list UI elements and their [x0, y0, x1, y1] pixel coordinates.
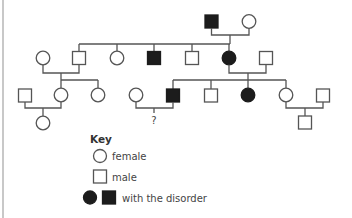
generation-1 — [79, 15, 256, 44]
individual-II-5-male — [186, 52, 199, 65]
individual-III-5-affected-male — [167, 89, 180, 102]
key-female-symbol — [94, 150, 107, 163]
key-label-male: male — [112, 172, 137, 183]
key-label-female: female — [112, 151, 146, 162]
key-male-symbol — [94, 170, 107, 183]
individual-IV-1-female — [36, 116, 50, 130]
child-drop-lines-II — [79, 44, 229, 52]
individual-III-4-female — [129, 88, 143, 102]
generation-3 — [19, 80, 330, 116]
key-label-disorder: with the disorder — [122, 193, 208, 204]
key-affected-female-symbol — [84, 191, 97, 204]
couple-line-III-right — [286, 102, 323, 108]
individual-II-1-female — [36, 51, 50, 65]
individual-I-1-affected-male — [205, 15, 218, 28]
individual-II-7-male — [260, 52, 273, 65]
individual-III-7-affected-female — [241, 88, 255, 102]
couple-line-III-middle — [136, 102, 173, 108]
child-drop-lines-III-left — [61, 80, 98, 88]
individual-I-2-female — [242, 15, 256, 29]
key-affected-male-symbol — [103, 191, 116, 204]
couple-line-III-left — [25, 102, 61, 108]
individual-III-3-female — [91, 88, 105, 102]
unknown-child-label: ? — [151, 115, 156, 126]
individual-IV-3-male — [299, 116, 312, 129]
individual-II-3-female — [110, 51, 124, 65]
child-drop-lines-III-right — [173, 80, 286, 89]
individual-II-4-affected-male — [148, 52, 161, 65]
individual-III-1-male — [19, 89, 32, 102]
legend-key: Key female male with the disorder — [84, 133, 208, 204]
generation-2 — [36, 44, 286, 80]
individual-II-6-affected-female — [222, 51, 236, 65]
couple-line-I — [212, 28, 250, 35]
couple-line-II-left — [43, 65, 79, 74]
individual-III-8-female — [279, 88, 293, 102]
pedigree-chart: ? Key female male with the disorder — [0, 0, 352, 218]
individual-III-9-male — [317, 89, 330, 102]
individual-III-2-female — [54, 88, 68, 102]
individual-II-2-male — [73, 52, 86, 65]
generation-4: ? — [36, 115, 311, 130]
individual-III-6-male — [205, 89, 218, 102]
key-title: Key — [90, 133, 112, 145]
couple-line-II-right — [229, 65, 266, 74]
